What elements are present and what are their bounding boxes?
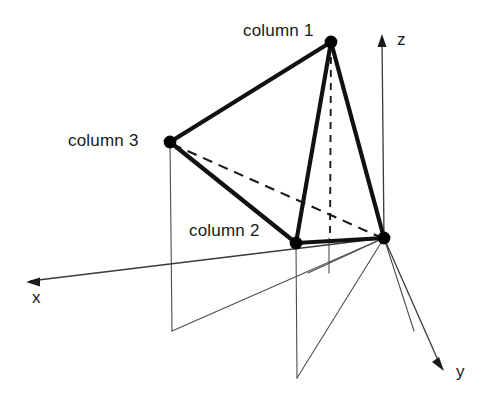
diagram-svg	[0, 0, 488, 405]
edge-column1-vertical-hidden	[330, 44, 331, 241]
vertex-dot-column2	[290, 237, 303, 250]
label-column-1: column 1	[243, 22, 314, 39]
axis-label-y: y	[456, 363, 465, 380]
axis-x-arrowhead	[26, 278, 40, 287]
drop-line-column3	[170, 142, 172, 331]
label-column-2: column 2	[189, 222, 260, 239]
axis-label-x: x	[32, 289, 41, 306]
edge-column1-origin	[331, 42, 384, 238]
axis-z-arrowhead	[378, 34, 387, 47]
axes-group	[30, 38, 441, 367]
axis-arrowheads-group	[26, 34, 444, 371]
axis-y-arrowhead	[432, 357, 444, 371]
ray-origin-downright	[384, 238, 414, 331]
axis-label-z: z	[397, 31, 406, 48]
edge-column2-origin	[296, 238, 384, 243]
axis-z-line	[382, 38, 384, 238]
axis-x-line	[30, 238, 384, 281]
axis-y-line	[384, 238, 441, 367]
vertex-dot-origin	[378, 232, 391, 245]
vertex-dot-column3	[164, 136, 177, 149]
edge-column1-column2	[296, 42, 331, 243]
diagram-canvas: column 1 column 2 column 3 x y z	[0, 0, 488, 405]
ray-origin-to-column3-base	[172, 238, 384, 331]
frame-edges-group	[170, 42, 384, 243]
edge-column1-column3	[170, 42, 331, 142]
drop-line-column2	[296, 244, 297, 378]
label-column-3: column 3	[68, 132, 139, 149]
vertex-dot-column1	[325, 36, 338, 49]
ray-origin-to-column2-base	[297, 238, 384, 378]
